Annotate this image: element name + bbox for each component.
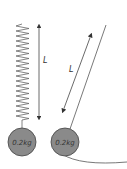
pendulum-swing-arc	[62, 154, 127, 163]
length-arrow-pendulum	[63, 35, 91, 111]
spring-mass-label: 0.2kg	[12, 139, 32, 147]
spring-coil	[16, 24, 29, 128]
diagram-canvas: L 0.2kg L 0.2kg	[0, 0, 127, 169]
spring-length-label: L	[43, 56, 47, 65]
pendulum-length-label: L	[69, 65, 73, 74]
pendulum-system: L 0.2kg	[51, 25, 127, 163]
spring-system: L 0.2kg	[8, 24, 47, 156]
pendulum-mass-label: 0.2kg	[55, 139, 75, 147]
